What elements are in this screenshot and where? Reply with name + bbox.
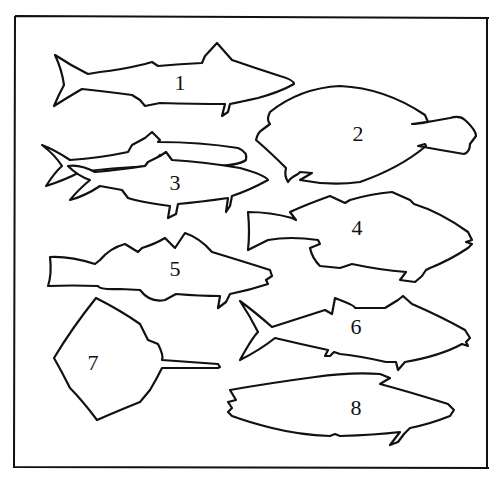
label-8: 8 [351, 395, 362, 420]
fish-5-outline [48, 233, 272, 308]
silhouette-3: 3 [42, 132, 268, 218]
silhouette-8: 8 [228, 373, 454, 445]
label-1: 1 [175, 70, 186, 95]
label-4: 4 [352, 215, 363, 240]
label-2: 2 [353, 121, 364, 146]
label-7: 7 [88, 350, 99, 375]
silhouette-1: 1 [54, 43, 294, 116]
label-6: 6 [351, 314, 362, 339]
silhouette-7: 7 [54, 298, 220, 420]
silhouette-5: 5 [48, 233, 272, 308]
label-5: 5 [170, 256, 181, 281]
silhouette-2: 2 [256, 86, 476, 184]
silhouette-6: 6 [240, 296, 470, 370]
fish-2-outline [256, 86, 476, 184]
figure: 1 2 3 4 5 6 7 8 [0, 0, 489, 488]
silhouette-4: 4 [248, 192, 472, 282]
fish-8-outline [228, 373, 454, 445]
label-3: 3 [170, 170, 181, 195]
fish-silhouette-chart: 1 2 3 4 5 6 7 8 [0, 0, 489, 488]
ray-7-outline [54, 298, 220, 420]
